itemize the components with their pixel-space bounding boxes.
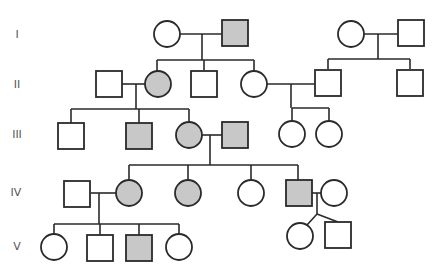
unaffected-female-V-4 xyxy=(166,234,192,260)
generation-label-I: I xyxy=(15,28,18,41)
affected-male-III-2 xyxy=(126,123,152,149)
unaffected-male-I-4 xyxy=(398,20,424,46)
affected-male-I-2 xyxy=(222,20,248,46)
pedigree-line xyxy=(317,214,338,222)
pedigree-chart xyxy=(0,0,433,271)
unaffected-female-IV-6 xyxy=(321,180,347,206)
affected-female-II-2 xyxy=(145,71,171,97)
unaffected-female-I-1 xyxy=(154,21,180,47)
unaffected-female-III-6 xyxy=(316,121,342,147)
affected-male-V-3 xyxy=(126,235,152,261)
unaffected-female-V-5 xyxy=(287,223,313,249)
generation-label-III: III xyxy=(12,128,22,141)
unaffected-female-III-5 xyxy=(279,121,305,147)
affected-female-IV-2 xyxy=(116,180,142,206)
unaffected-male-IV-1 xyxy=(64,181,90,207)
unaffected-female-I-3 xyxy=(338,21,364,47)
affected-male-III-4 xyxy=(222,122,248,148)
unaffected-female-II-4 xyxy=(241,71,267,97)
unaffected-male-V-2 xyxy=(87,235,113,261)
affected-female-IV-3 xyxy=(175,180,201,206)
unaffected-male-II-3 xyxy=(191,71,217,97)
unaffected-male-II-5 xyxy=(315,70,341,96)
generation-label-IV: IV xyxy=(11,186,22,199)
unaffected-female-IV-4 xyxy=(238,180,264,206)
individuals xyxy=(41,20,424,261)
affected-female-III-3 xyxy=(176,122,202,148)
unaffected-male-V-6 xyxy=(325,222,351,248)
unaffected-male-II-1 xyxy=(96,71,122,97)
pedigree-line xyxy=(307,214,317,225)
unaffected-female-V-1 xyxy=(41,234,67,260)
generation-label-II: II xyxy=(14,78,21,91)
generation-label-V: V xyxy=(13,240,21,253)
unaffected-male-II-6 xyxy=(397,70,423,96)
unaffected-male-III-1 xyxy=(58,123,84,149)
affected-male-IV-5 xyxy=(286,180,312,206)
